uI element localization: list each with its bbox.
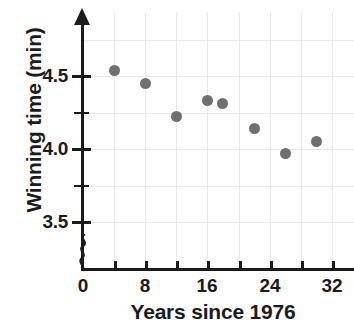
y-tick-4.5	[72, 75, 91, 78]
y-tick-4.25	[74, 112, 89, 114]
x-tick-12	[176, 261, 179, 271]
x-tick-8	[145, 261, 148, 271]
y-axis-line	[81, 22, 84, 270]
gridline-horizontal	[83, 113, 354, 114]
x-tick-label-0: 0	[63, 275, 103, 297]
y-axis-title: Winning time (min)	[22, 0, 46, 240]
y-tick-4.0	[72, 148, 91, 151]
data-point	[140, 78, 151, 89]
gridline-vertical	[270, 12, 271, 270]
gridline-horizontal	[83, 186, 354, 187]
gridline-vertical	[145, 12, 146, 270]
data-point	[109, 65, 120, 76]
x-tick-label-32: 32	[312, 275, 352, 297]
gridline-horizontal	[83, 222, 354, 223]
x-tick-28	[301, 261, 304, 271]
gridline-vertical	[207, 12, 208, 270]
x-tick-label-16: 16	[187, 275, 227, 297]
x-tick-4	[114, 261, 117, 271]
x-tick-label-24: 24	[250, 275, 290, 297]
y-tick-3.75	[74, 185, 89, 187]
gridline-vertical	[332, 12, 333, 270]
gridline-horizontal	[83, 40, 354, 41]
data-point	[249, 123, 260, 134]
gridline-horizontal	[83, 149, 354, 150]
x-axis-title: Years since 1976	[72, 300, 354, 324]
y-tick-3.5	[72, 221, 91, 224]
data-point	[280, 148, 291, 159]
x-tick-32	[332, 261, 335, 271]
scatter-plot-figure: 4.5 4.0 3.5 0 8 16 24 32 Winning time (m…	[0, 0, 354, 331]
x-tick-label-8: 8	[125, 275, 165, 297]
data-point	[217, 98, 228, 109]
gridline-horizontal	[83, 76, 354, 77]
x-tick-16	[207, 261, 210, 271]
plot-area	[83, 12, 354, 270]
gridline-vertical	[114, 12, 115, 270]
gridline-vertical	[176, 12, 177, 270]
axis-break-icon	[68, 234, 92, 272]
data-point	[202, 95, 213, 106]
data-point	[311, 136, 322, 147]
x-tick-20	[239, 261, 242, 271]
x-tick-24	[270, 261, 273, 271]
gridline-vertical	[301, 12, 302, 270]
x-axis-line	[81, 268, 354, 271]
gridline-vertical	[239, 12, 240, 270]
data-point	[171, 111, 182, 122]
